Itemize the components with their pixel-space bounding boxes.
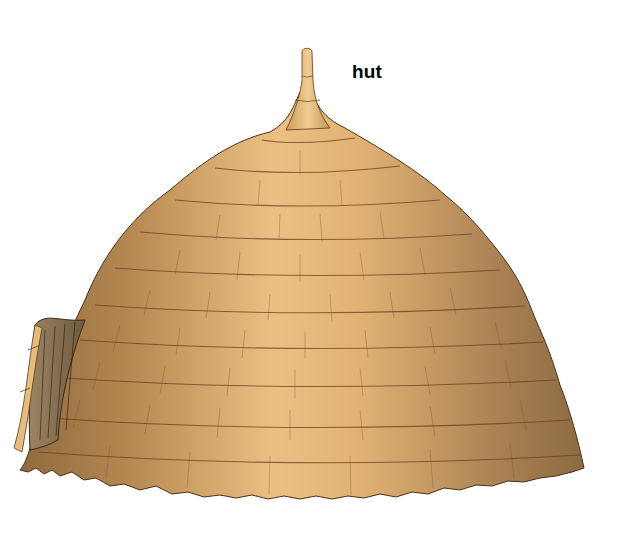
hut-label: hut	[352, 62, 382, 81]
hut-illustration	[0, 0, 619, 539]
roof-finial	[286, 48, 330, 130]
hut-drawing	[0, 0, 619, 539]
thatch-roof	[20, 92, 584, 499]
